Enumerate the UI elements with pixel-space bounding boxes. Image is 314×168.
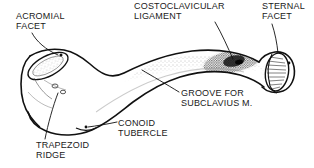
leader-sternal-facet	[272, 24, 278, 53]
leader-acromial-facet	[32, 33, 58, 55]
trapezoid-ridge-marks	[44, 80, 66, 94]
label-groove-for-subclavius: GROOVE FOR SUBCLAVIUS M.	[181, 89, 252, 108]
label-sternal-facet: STERNAL FACET	[262, 2, 305, 21]
label-trapezoid-ridge: TRAPEZOID RIDGE	[36, 141, 89, 160]
label-conoid-tubercle: CONOID TUBERCLE	[118, 119, 168, 138]
label-acromial-facet: ACROMIAL FACET	[16, 12, 65, 31]
label-costoclavicular-ligament: COSTOCLAVICULAR LIGAMENT	[134, 2, 225, 21]
clavicle-diagram-figure: ACROMIAL FACET COSTOCLAVICULAR LIGAMENT …	[0, 0, 314, 168]
